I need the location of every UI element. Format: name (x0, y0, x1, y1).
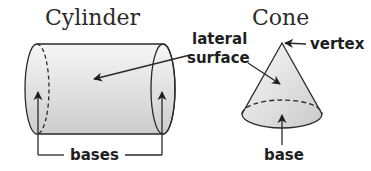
base-label: base (264, 146, 304, 164)
lateral-label-line1: lateral (192, 30, 247, 48)
vertex-label: vertex (310, 35, 365, 53)
cylinder-title: Cylinder (45, 5, 141, 30)
cone-title: Cone (252, 5, 309, 30)
bases-label: bases (70, 146, 119, 164)
cylinder-shape (25, 44, 175, 134)
vertex-arrow (285, 43, 306, 44)
geometry-diagram: Cylinder Cone bases lateral surface (0, 0, 371, 171)
lateral-label-line2: surface (187, 49, 250, 67)
